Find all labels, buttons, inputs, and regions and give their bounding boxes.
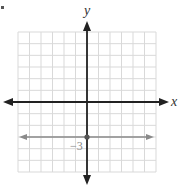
coordinate-plane: x y −3 [0,0,180,188]
arrow-down-icon [83,175,91,185]
arrow-right-icon [159,98,169,106]
arrow-right-icon [146,134,154,140]
arrow-left-icon [19,134,27,140]
arrow-up-icon [83,21,91,31]
y-intercept-point [84,134,89,139]
arrow-left-icon [3,98,13,106]
tick-label-neg3: −3 [70,139,83,153]
x-axis-label: x [170,94,178,109]
y-axis-label: y [82,3,91,18]
problem-marker [1,6,4,9]
